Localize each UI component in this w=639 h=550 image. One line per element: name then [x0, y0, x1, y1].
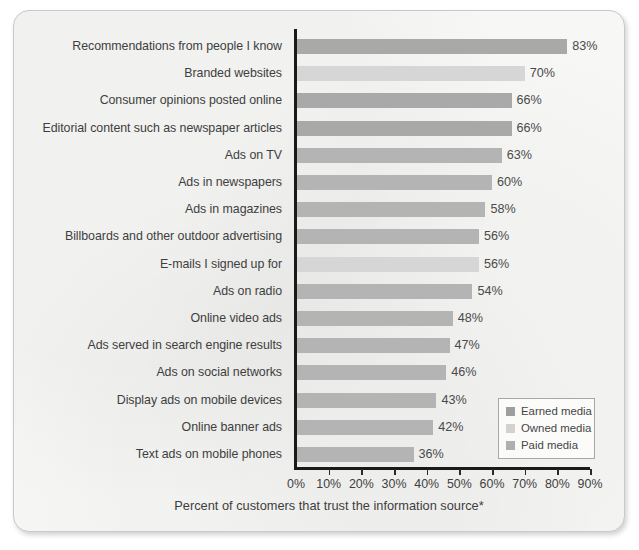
x-axis-tick-label: 20%: [349, 477, 374, 491]
bar: [296, 311, 453, 326]
chart-card: Recommendations from people I know83%Bra…: [13, 10, 625, 532]
bar-value-label: 70%: [525, 60, 555, 87]
bar-row: Consumer opinions posted online66%: [14, 87, 624, 114]
bar-value-label: 60%: [492, 169, 522, 196]
legend-swatch-icon: [506, 441, 515, 450]
bar-row: Ads on TV63%: [14, 142, 624, 169]
bar-value-label: 46%: [446, 359, 476, 386]
category-label: E-mails I signed up for: [160, 251, 282, 278]
bar-value-label: 66%: [512, 87, 542, 114]
x-axis-tick: [329, 469, 331, 475]
x-axis-tick: [557, 469, 559, 475]
bar-row: Recommendations from people I know83%: [14, 33, 624, 60]
category-label: Ads on social networks: [156, 359, 282, 386]
bar: [296, 93, 512, 108]
category-label: Branded websites: [184, 60, 282, 87]
bar: [296, 66, 525, 81]
bar-row: Online video ads48%: [14, 305, 624, 332]
legend-item-owned: Owned media: [506, 421, 587, 435]
category-label: Ads served in search engine results: [87, 332, 282, 359]
category-label: Ads in newspapers: [178, 169, 282, 196]
category-label: Consumer opinions posted online: [100, 87, 282, 114]
bar-value-label: 47%: [450, 332, 480, 359]
x-axis-title: Percent of customers that trust the info…: [14, 498, 624, 513]
x-axis-tick-label: 0%: [287, 477, 305, 491]
bar-value-label: 56%: [479, 251, 509, 278]
bar-value-label: 83%: [567, 33, 597, 60]
category-label: Display ads on mobile devices: [117, 387, 282, 414]
x-axis-line: [294, 467, 590, 470]
legend-swatch-icon: [506, 407, 515, 416]
legend-label: Paid media: [521, 439, 578, 451]
bar: [296, 148, 502, 163]
bar-value-label: 56%: [479, 223, 509, 250]
x-axis-tick-label: 60%: [480, 477, 505, 491]
x-axis-tick-label: 80%: [545, 477, 570, 491]
bar: [296, 420, 433, 435]
bar-row: E-mails I signed up for56%: [14, 251, 624, 278]
bar-row: Ads on radio54%: [14, 278, 624, 305]
category-label: Editorial content such as newspaper arti…: [42, 115, 282, 142]
bar-row: Branded websites70%: [14, 60, 624, 87]
bar: [296, 121, 512, 136]
bar-value-label: 36%: [414, 441, 444, 468]
x-axis-tick: [492, 469, 494, 475]
category-label: Online video ads: [190, 305, 282, 332]
x-axis-tick-label: 70%: [512, 477, 537, 491]
y-axis-line: [294, 29, 297, 469]
x-axis-tick-label: 10%: [316, 477, 341, 491]
category-label: Billboards and other outdoor advertising: [65, 223, 282, 250]
bar: [296, 229, 479, 244]
x-axis-tick: [590, 469, 592, 475]
legend-swatch-icon: [506, 424, 515, 433]
bar-value-label: 63%: [502, 142, 532, 169]
bar: [296, 393, 436, 408]
x-axis-tick-label: 50%: [447, 477, 472, 491]
legend-label: Earned media: [521, 405, 592, 417]
category-label: Ads on TV: [225, 142, 282, 169]
bar-row: Billboards and other outdoor advertising…: [14, 223, 624, 250]
legend-item-earned: Earned media: [506, 404, 587, 418]
bar-chart-plot-area: Recommendations from people I know83%Bra…: [14, 11, 624, 531]
bar-value-label: 48%: [453, 305, 483, 332]
x-axis-tick: [427, 469, 429, 475]
x-axis-tick-label: 40%: [414, 477, 439, 491]
legend-label: Owned media: [521, 422, 591, 434]
legend-item-paid: Paid media: [506, 438, 587, 452]
bar-value-label: 58%: [485, 196, 515, 223]
bar: [296, 257, 479, 272]
chart-legend: Earned mediaOwned mediaPaid media: [498, 398, 595, 459]
category-label: Recommendations from people I know: [72, 33, 282, 60]
category-label: Text ads on mobile phones: [136, 441, 282, 468]
bar-value-label: 66%: [512, 115, 542, 142]
bar-row: Editorial content such as newspaper arti…: [14, 115, 624, 142]
bar: [296, 284, 472, 299]
bar-row: Ads on social networks46%: [14, 359, 624, 386]
bar: [296, 365, 446, 380]
bar: [296, 338, 450, 353]
bar: [296, 175, 492, 190]
bar: [296, 447, 414, 462]
bar-value-label: 43%: [436, 387, 466, 414]
bar-value-label: 54%: [472, 278, 502, 305]
x-axis-tick: [459, 469, 461, 475]
bar: [296, 202, 485, 217]
bar-row: Ads in magazines58%: [14, 196, 624, 223]
x-axis-tick-label: 90%: [578, 477, 603, 491]
bar-row: Ads served in search engine results47%: [14, 332, 624, 359]
x-axis-tick: [525, 469, 527, 475]
x-axis-tick: [361, 469, 363, 475]
bar-row: Ads in newspapers60%: [14, 169, 624, 196]
x-axis-tick-label: 30%: [382, 477, 407, 491]
bar: [296, 39, 567, 54]
category-label: Ads in magazines: [185, 196, 282, 223]
bar-value-label: 42%: [433, 414, 463, 441]
x-axis-tick: [394, 469, 396, 475]
category-label: Online banner ads: [182, 414, 282, 441]
category-label: Ads on radio: [213, 278, 282, 305]
